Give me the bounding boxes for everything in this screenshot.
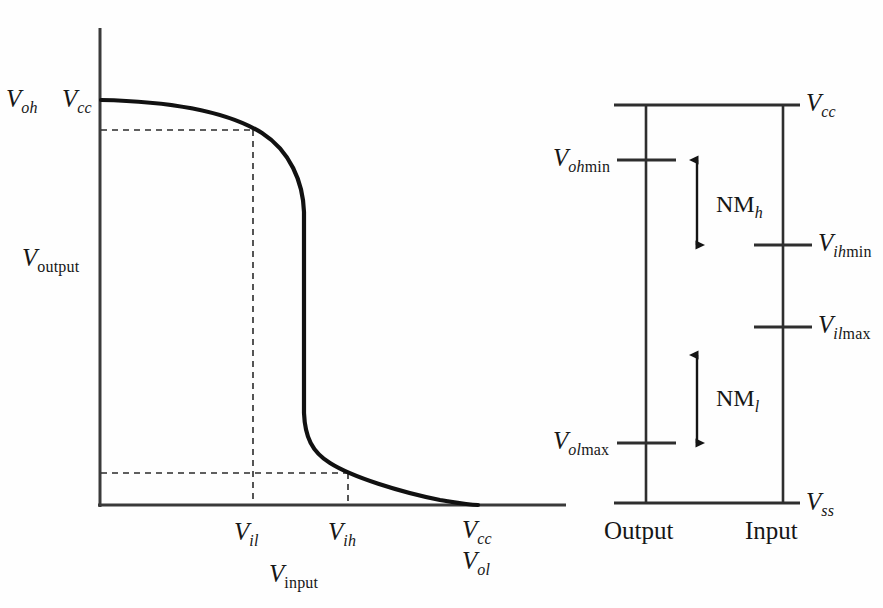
- nm-low-text: NM: [716, 385, 755, 411]
- label-nm-low: NMl: [716, 386, 759, 410]
- vihmin-var: V: [818, 229, 833, 256]
- left-plot-axes: [98, 28, 566, 507]
- volmax-sub-i: ol: [568, 441, 581, 458]
- vohmin-sub-u: min: [585, 158, 611, 175]
- transfer-curve: [101, 100, 478, 505]
- label-x-tick-vih: Vih: [328, 519, 356, 544]
- vihmin-sub-i: ih: [833, 243, 846, 260]
- vihmin-sub-u: min: [846, 243, 872, 260]
- vohmin-sub-i: oh: [568, 158, 584, 175]
- label-column-input: Input: [745, 518, 798, 543]
- label-vcc-left: Vcc: [62, 86, 92, 111]
- voutput-var: V: [22, 244, 37, 271]
- voutput-sub: output: [37, 258, 79, 275]
- nm-low-sub: l: [755, 398, 760, 415]
- vil-sub: il: [249, 532, 258, 549]
- vih-sub: ih: [343, 532, 356, 549]
- figure-page: Voh Vcc Voutput Vil Vih Vcc Vol Vinput V…: [0, 0, 883, 608]
- label-column-output: Output: [604, 518, 673, 543]
- vcc-end-var: V: [462, 516, 477, 543]
- vcc-end-sub: cc: [477, 530, 492, 547]
- label-x-end-vcc: Vcc: [462, 517, 492, 542]
- label-y-axis-voutput: Voutput: [22, 245, 79, 270]
- right-plot-structure: [614, 105, 812, 503]
- vilmax-var: V: [818, 311, 833, 338]
- left-plot-guides: [101, 130, 348, 504]
- vil-var: V: [234, 518, 249, 545]
- label-vilmax: Vilmax: [818, 312, 871, 337]
- volmax-var: V: [553, 427, 568, 454]
- label-vss-rail: Vss: [806, 489, 834, 514]
- vss-rail-var: V: [806, 488, 821, 515]
- vilmax-sub-u: max: [843, 325, 871, 342]
- label-nm-high: NMh: [716, 192, 763, 216]
- label-vihmin: Vihmin: [818, 230, 872, 255]
- voh-var: V: [6, 85, 21, 112]
- nm-high-text: NM: [716, 191, 755, 217]
- vcc-left-sub: cc: [77, 99, 92, 116]
- vcc-rail-sub: cc: [821, 103, 836, 120]
- label-voh: Voh: [6, 86, 38, 111]
- vohmin-var: V: [553, 144, 568, 171]
- label-x-tick-vil: Vil: [234, 519, 259, 544]
- vinput-var: V: [269, 560, 284, 587]
- vcc-rail-var: V: [806, 89, 821, 116]
- nm-high-sub: h: [755, 204, 763, 221]
- label-x-end-vol: Vol: [462, 548, 490, 573]
- label-vohmin: Vohmin: [553, 145, 610, 170]
- vinput-sub: input: [284, 574, 318, 591]
- vol-end-var: V: [462, 547, 477, 574]
- label-vcc-rail: Vcc: [806, 90, 836, 115]
- vol-end-sub: ol: [477, 561, 490, 578]
- vss-rail-sub: ss: [821, 502, 834, 519]
- vih-var: V: [328, 518, 343, 545]
- voh-sub: oh: [21, 99, 37, 116]
- label-x-axis-vinput: Vinput: [269, 561, 318, 586]
- vcc-left-var: V: [62, 85, 77, 112]
- volmax-sub-u: max: [581, 441, 609, 458]
- vilmax-sub-i: il: [833, 325, 842, 342]
- label-volmax: Volmax: [553, 428, 609, 453]
